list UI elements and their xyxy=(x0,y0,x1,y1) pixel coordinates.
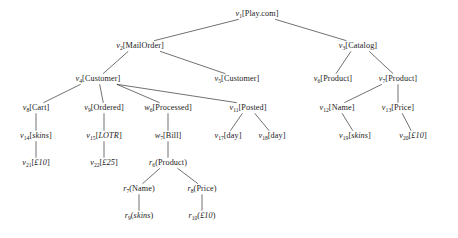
tree-edge-v7-v12 xyxy=(344,84,382,102)
node-subscript-v7: 7 xyxy=(383,77,386,83)
node-subscript-v9: 9 xyxy=(88,106,91,112)
node-label-v12: Name xyxy=(332,103,352,112)
node-subscript-v1: 1 xyxy=(239,12,242,18)
node-bracket-close-v4: ] xyxy=(118,74,121,83)
node-bracket-close-r8: ) xyxy=(214,184,217,193)
node-bracket-close-r10: ) xyxy=(213,211,216,220)
node-label-v15: LOTR xyxy=(98,131,118,140)
tree-edge-v2-v4 xyxy=(103,51,128,73)
node-subscript-w6: 6 xyxy=(150,106,153,112)
node-label-r6: Product xyxy=(158,158,184,167)
tree-edge-v3-v7 xyxy=(369,51,393,73)
node-label-v6: Product xyxy=(323,74,349,83)
node-subscript-r9: 9 xyxy=(128,214,131,220)
node-subscript-w7: 7 xyxy=(160,134,163,140)
node-bracket-close-v12: ] xyxy=(352,103,355,112)
node-subscript-v12: 12 xyxy=(323,106,329,112)
node-subscript-r6: 6 xyxy=(152,161,155,167)
tree-node-v4: v4[Customer] xyxy=(76,75,121,83)
node-label-v22: £25 xyxy=(102,158,115,167)
node-subscript-r8: 8 xyxy=(191,187,194,193)
node-bracket-close-v21: ] xyxy=(47,158,50,167)
node-subscript-v20: 20 xyxy=(403,134,409,140)
node-subscript-v6: 6 xyxy=(318,77,321,83)
node-subscript-r7: 7 xyxy=(126,187,129,193)
tree-node-w7: w7[Bill] xyxy=(155,132,182,140)
node-label-v20: £10 xyxy=(411,131,424,140)
node-bracket-close-v1: ] xyxy=(276,9,279,18)
tree-node-v20: v20[£10] xyxy=(399,132,427,140)
node-label-v18: day xyxy=(271,131,283,140)
tree-node-v6: v6[Product] xyxy=(314,75,352,83)
tree-edge-v4-v8 xyxy=(43,84,80,102)
tree-edge-v11-v17 xyxy=(230,113,242,130)
node-label-w7: Bill xyxy=(166,131,179,140)
node-bracket-close-r9: ) xyxy=(150,211,153,220)
node-bracket-close-v14: ] xyxy=(49,131,52,140)
node-subscript-v4: 4 xyxy=(79,77,82,83)
tree-edge-v4-v11 xyxy=(117,84,237,102)
node-subscript-v8: 8 xyxy=(26,106,29,112)
tree-node-r10: r10(£10) xyxy=(188,212,215,220)
tree-node-v5: v5[Customer] xyxy=(215,75,260,83)
node-subscript-v21: 21 xyxy=(26,161,32,167)
tree-node-v3: v3[Catalog] xyxy=(339,42,377,50)
node-label-r7: Name xyxy=(132,184,152,193)
node-subscript-v15: 15 xyxy=(90,134,96,140)
edge-layer xyxy=(0,0,458,238)
node-label-v7: Product xyxy=(388,74,414,83)
node-bracket-close-v20: ] xyxy=(424,131,427,140)
tree-node-r8: r8(Price) xyxy=(187,185,216,193)
node-bracket-close-w6: ] xyxy=(189,103,192,112)
node-subscript-v3: 3 xyxy=(343,44,346,50)
node-bracket-close-v9: ] xyxy=(121,103,124,112)
tree-edge-r6-r7 xyxy=(142,168,159,183)
node-subscript-v2: 2 xyxy=(120,44,123,50)
node-label-r10: £10 xyxy=(200,211,213,220)
node-label-v8: Cart xyxy=(32,103,47,112)
node-label-v21: £10 xyxy=(34,158,47,167)
node-id-w6: w xyxy=(144,103,150,112)
node-label-v14: skins xyxy=(32,131,49,140)
node-label-v1: Play.com xyxy=(245,9,276,18)
node-label-r8: Price xyxy=(196,184,213,193)
node-bracket-close-v11: ] xyxy=(264,103,267,112)
node-id-w7: w xyxy=(155,131,161,140)
node-bracket-close-v2: ] xyxy=(161,41,164,50)
tree-edge-v12-v19 xyxy=(342,113,353,130)
tree-node-v2: v2[MailOrder] xyxy=(116,42,164,50)
node-subscript-v17: 17 xyxy=(218,134,224,140)
tree-node-v17: v17[day] xyxy=(214,132,241,140)
node-bracket-close-v15: ] xyxy=(119,131,122,140)
tree-node-v7: v7[Product] xyxy=(379,75,417,83)
node-label-v5: Customer xyxy=(224,74,257,83)
tree-edge-v11-v18 xyxy=(255,113,269,130)
node-bracket-close-v3: ] xyxy=(374,41,377,50)
node-subscript-v11: 11 xyxy=(233,106,238,112)
node-label-v13: Price xyxy=(394,103,411,112)
tree-node-r7: r7(Name) xyxy=(123,185,155,193)
node-bracket-close-w7: ] xyxy=(179,131,182,140)
node-bracket-close-v13: ] xyxy=(411,103,414,112)
tree-edge-r6-r8 xyxy=(178,168,198,183)
node-label-v3: Catalog xyxy=(348,41,374,50)
tree-node-v8: v8[Cart] xyxy=(23,104,50,112)
node-bracket-close-v22: ] xyxy=(115,158,118,167)
node-bracket-close-v17: ] xyxy=(239,131,242,140)
node-subscript-v5: 5 xyxy=(218,77,221,83)
tree-edge-v4-v9 xyxy=(100,84,104,102)
node-subscript-v19: 19 xyxy=(343,134,349,140)
tree-edge-v3-v6 xyxy=(336,51,351,73)
tree-node-v14: v14[skins] xyxy=(20,132,52,140)
tree-node-v1: v1[Play.com] xyxy=(235,10,278,18)
node-label-v19: skins xyxy=(351,131,368,140)
node-bracket-close-v6: ] xyxy=(349,74,352,83)
tree-node-v21: v21[£10] xyxy=(22,159,50,167)
tree-node-v9: v9[Ordered] xyxy=(84,104,124,112)
tree-edge-v1-v3 xyxy=(275,19,346,40)
node-bracket-close-v8: ] xyxy=(47,103,50,112)
node-label-v9: Ordered xyxy=(94,103,122,112)
tree-node-r6: r6(Product) xyxy=(149,159,187,167)
node-bracket-close-r7: ) xyxy=(152,184,155,193)
tree-node-v13: v13[Price] xyxy=(382,104,414,112)
